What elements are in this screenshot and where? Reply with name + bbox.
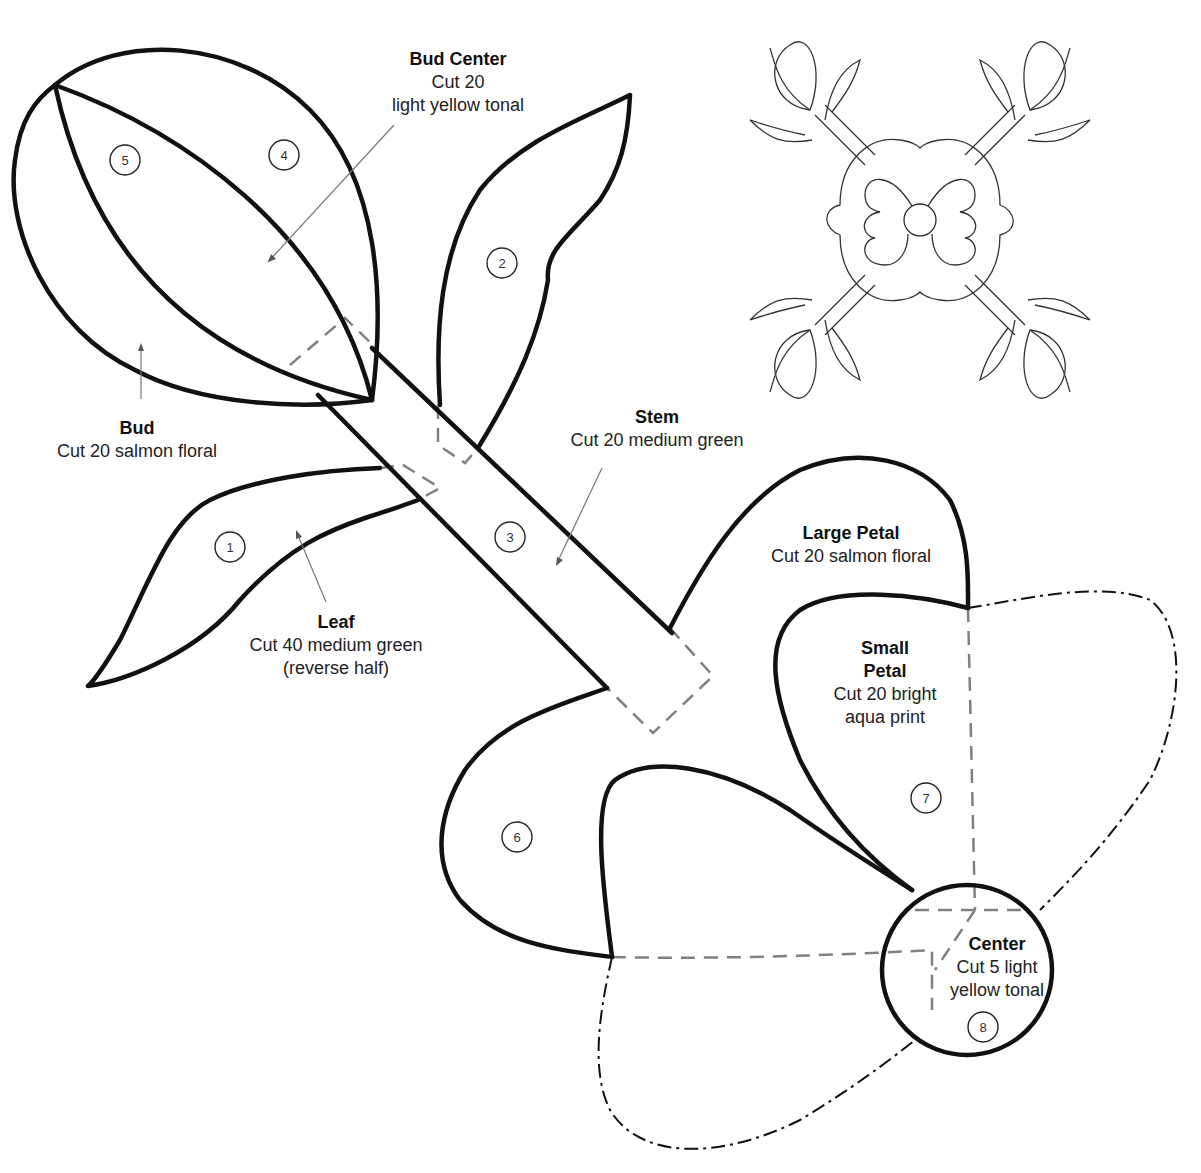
- pattern-canvas: 5 4 2 1 3 6 7 8: [0, 0, 1201, 1173]
- label-small-petal-line1: Cut 20 bright: [833, 683, 936, 706]
- label-small-petal-line2: aqua print: [833, 706, 936, 729]
- label-center-line1: Cut 5 light: [950, 956, 1044, 979]
- leaf-piece-upper: [438, 95, 630, 448]
- label-small-petal-title1: Small: [833, 637, 936, 660]
- number-7: 7: [922, 791, 929, 806]
- label-stem-title: Stem: [570, 406, 743, 429]
- block-preview-diagram: [750, 42, 1090, 398]
- label-large-petal-title: Large Petal: [771, 522, 931, 545]
- label-large-petal-line1: Cut 20 salmon floral: [771, 545, 931, 568]
- label-bud-center-title: Bud Center: [392, 48, 524, 71]
- label-center-line2: yellow tonal: [950, 979, 1044, 1002]
- number-5: 5: [121, 153, 128, 168]
- label-large-petal: Large Petal Cut 20 salmon floral: [771, 522, 931, 568]
- label-leaf-line1: Cut 40 medium green: [249, 634, 422, 657]
- leader-lines: [138, 125, 602, 602]
- number-6: 6: [513, 830, 520, 845]
- label-small-petal-title2: Petal: [833, 660, 936, 683]
- label-stem-line1: Cut 20 medium green: [570, 429, 743, 452]
- label-leaf-title: Leaf: [249, 611, 422, 634]
- bud-piece: [14, 50, 378, 405]
- number-3: 3: [506, 530, 513, 545]
- label-center: Center Cut 5 light yellow tonal: [950, 933, 1044, 1002]
- label-bud-center-line1: Cut 20: [392, 71, 524, 94]
- number-1: 1: [226, 540, 233, 555]
- number-4: 4: [280, 148, 287, 163]
- label-small-petal: Small Petal Cut 20 bright aqua print: [833, 637, 936, 729]
- label-bud-line1: Cut 20 salmon floral: [57, 440, 217, 463]
- label-bud: Bud Cut 20 salmon floral: [57, 417, 217, 463]
- label-bud-center: Bud Center Cut 20 light yellow tonal: [392, 48, 524, 117]
- number-2: 2: [498, 256, 505, 271]
- label-stem: Stem Cut 20 medium green: [570, 406, 743, 452]
- label-bud-title: Bud: [57, 417, 217, 440]
- label-center-title: Center: [950, 933, 1044, 956]
- label-leaf-line2: (reverse half): [249, 657, 422, 680]
- label-leaf: Leaf Cut 40 medium green (reverse half): [249, 611, 422, 680]
- label-bud-center-line2: light yellow tonal: [392, 94, 524, 117]
- number-8: 8: [979, 1020, 986, 1035]
